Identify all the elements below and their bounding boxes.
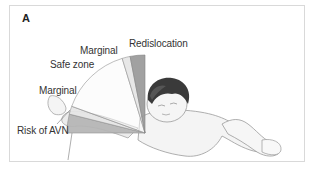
label-marginal-upper: Marginal [80,45,118,56]
label-risk-avn: Risk of AVN [17,125,69,136]
label-marginal-lower: Marginal [39,85,77,96]
label-safe-zone: Safe zone [50,59,94,70]
panel-letter: A [22,12,30,24]
label-redislocation: Redislocation [129,38,188,49]
